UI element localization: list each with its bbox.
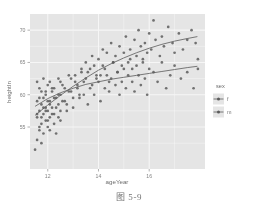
y-axis-ticks: 55606570 bbox=[20, 27, 30, 130]
y-tick-label: 70 bbox=[20, 27, 26, 33]
chart-plot-area: 121416 55606570 ageYear heightIn sex fm bbox=[0, 4, 258, 190]
y-tick-label: 65 bbox=[20, 59, 26, 65]
legend-item-label-f: f bbox=[227, 96, 229, 102]
chart-legend: sex fm bbox=[213, 83, 232, 118]
y-tick-label: 60 bbox=[20, 92, 26, 98]
legend-item-label-m: m bbox=[227, 109, 232, 115]
figure-container: 121416 55606570 ageYear heightIn sex fm … bbox=[0, 0, 258, 215]
plot-panel-background bbox=[30, 14, 205, 169]
x-axis-title: ageYear bbox=[106, 178, 129, 185]
x-axis-ticks: 121416 bbox=[45, 169, 152, 179]
x-tick-label: 12 bbox=[45, 173, 51, 179]
y-axis-title: heightIn bbox=[5, 80, 12, 103]
x-tick-label: 14 bbox=[96, 173, 102, 179]
y-tick-label: 55 bbox=[20, 124, 26, 130]
legend-title: sex bbox=[216, 83, 225, 89]
legend-items: fm bbox=[213, 94, 232, 118]
x-tick-label: 16 bbox=[146, 173, 152, 179]
scatter-chart-svg: 121416 55606570 ageYear heightIn sex fm bbox=[0, 4, 258, 190]
figure-caption: 图 5-9 bbox=[0, 190, 258, 203]
